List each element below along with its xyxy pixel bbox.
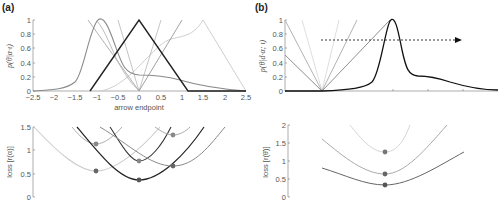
a-top-ylabel: p(θ|α·ι) [5,44,14,69]
svg-text:0.8: 0.8 [273,30,283,39]
b-top-dotted-arrow [321,37,462,43]
a-top-curves [33,19,246,91]
svg-text:0.4: 0.4 [273,59,283,68]
svg-text:2.5: 2.5 [241,93,251,102]
svg-text:−1.5: −1.5 [68,93,83,102]
svg-text:−2.5: −2.5 [26,93,41,102]
svg-text:1: 1 [180,93,184,102]
svg-text:0.4: 0.4 [21,59,31,68]
figure: (a) 0 0.2 0.4 0.6 0.8 1 p(θ|α·ι) −2.5 −2… [0,0,504,205]
b-bottom-y-axis [288,125,290,197]
svg-text:2: 2 [223,93,227,102]
a-bottom-y-ticks: 0 0.5 1 1.5 [21,123,31,202]
svg-text:1.5: 1.5 [198,93,208,102]
svg-text:0: 0 [137,93,141,102]
svg-text:−1: −1 [93,93,102,102]
svg-text:0: 0 [282,193,286,202]
b-top-ylabel: p(θ|d·α; ι) [258,39,267,73]
a-bottom-curves [34,127,225,180]
svg-text:0: 0 [279,87,283,96]
panel-b-label: (b) [255,2,268,13]
svg-text:1: 1 [27,146,31,155]
svg-text:0.6: 0.6 [273,44,283,53]
svg-text:1: 1 [282,157,286,166]
a-bottom-y-axis [33,127,35,197]
svg-text:−0.5: −0.5 [111,93,126,102]
b-bottom-curves [322,125,464,185]
svg-text:0.8: 0.8 [21,30,31,39]
a-top-xlabel: arrow endpoint [114,103,165,112]
svg-text:0.5: 0.5 [276,175,286,184]
a-top-y-axis [33,20,35,91]
svg-text:−2: −2 [50,93,59,102]
svg-text:0.5: 0.5 [156,93,166,102]
svg-text:1.5: 1.5 [21,123,31,132]
svg-text:1: 1 [279,16,283,25]
a-top-x-ticks: −2.5 −2 −1.5 −1 −0.5 0 0.5 1 1.5 2 2.5 [26,93,252,102]
svg-text:2: 2 [282,121,286,130]
b-bottom-ylabel: loss [r(θ̂)] [261,146,270,177]
svg-text:1.5: 1.5 [276,139,286,148]
svg-text:0.2: 0.2 [21,73,31,82]
panel-a-label: (a) [2,2,14,13]
svg-text:0.5: 0.5 [21,170,31,179]
a-top-y-ticks: 0 0.2 0.4 0.6 0.8 1 [21,16,31,96]
svg-text:0.2: 0.2 [273,73,283,82]
a-bottom-ylabel: loss [r(α)] [5,146,14,177]
svg-text:1: 1 [27,16,31,25]
svg-text:0: 0 [27,193,31,202]
b-bottom-y-ticks: 0 0.5 1 1.5 2 [276,121,286,202]
b-bottom-min-markers [383,150,388,188]
b-top-curves [285,19,498,91]
b-top-y-ticks: 0 0.2 0.4 0.6 0.8 1 [273,16,283,96]
svg-text:0.6: 0.6 [21,44,31,53]
